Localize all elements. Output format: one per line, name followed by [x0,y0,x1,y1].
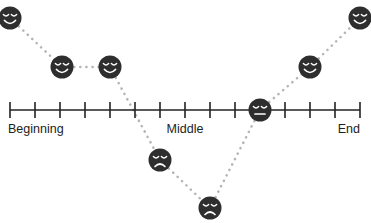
label-middle: Middle [167,123,204,136]
connector-segment [210,110,260,208]
label-beginning: Beginning [8,123,64,136]
sad-face-icon [149,149,172,172]
label-end: End [338,123,360,136]
sad-face-icon [199,197,222,220]
timeline-axis [10,102,360,118]
neutral-face-icon [249,99,272,122]
journey-diagram [0,0,371,223]
happy-face-icon [349,7,371,30]
happy-face-icon [299,56,322,79]
happy-face-icon [51,56,74,79]
happy-face-icon [99,56,122,79]
